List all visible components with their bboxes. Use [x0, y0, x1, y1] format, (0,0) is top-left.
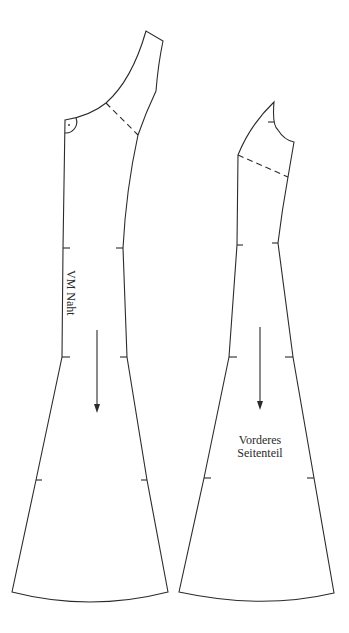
piece-outline-center-front: [12, 31, 168, 602]
pattern-diagram: VM Naht Vorderes Seitenteil: [0, 0, 349, 633]
dashed-seam-line: [106, 103, 138, 135]
arrow-down-icon: [257, 401, 263, 410]
label-vm-naht: VM Naht: [64, 270, 78, 316]
pattern-piece-front-side: Vorderes Seitenteil: [179, 102, 334, 601]
dashed-seam-line: [238, 155, 288, 177]
piece-outline-front-side: [179, 102, 334, 601]
arrow-down-icon: [94, 404, 100, 413]
right-angle-dot: [68, 124, 70, 126]
label-vorderes: Vorderes: [239, 433, 282, 447]
label-seitenteil: Seitenteil: [237, 446, 283, 460]
pattern-piece-center-front: VM Naht: [12, 31, 168, 602]
